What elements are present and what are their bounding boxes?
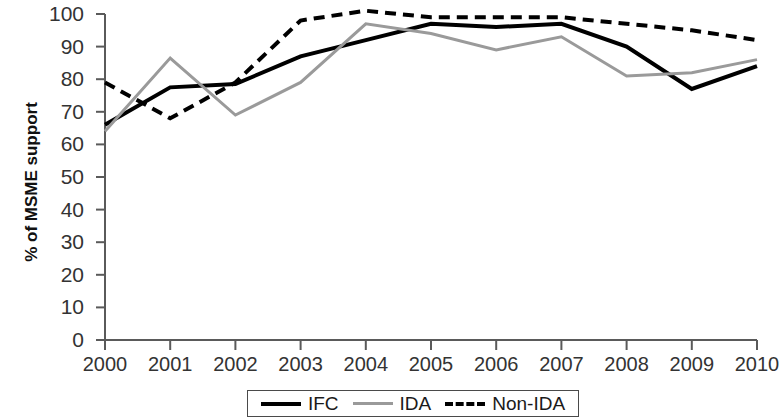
data-series-lines [105,11,757,132]
x-tick-label: 2006 [474,353,519,376]
y-axis-ticks [96,14,105,340]
legend-label-ifc: IFC [308,393,339,415]
x-tick-label: 2008 [604,353,649,376]
chart-legend: IFC IDA Non-IDA [247,390,579,417]
legend-item-ifc: IFC [254,393,346,415]
x-tick-label: 2009 [670,353,715,376]
axis-lines [105,14,757,340]
x-tick-label: 2005 [409,353,454,376]
legend-item-non-ida: Non-IDA [438,393,572,415]
x-tick-label: 2001 [148,353,193,376]
legend-swatch-ifc-icon [261,402,301,406]
x-tick-label: 2010 [735,353,779,376]
x-tick-label: 2003 [278,353,323,376]
x-tick-label: 2002 [213,353,258,376]
legend-label-ida: IDA [400,393,432,415]
legend-item-ida: IDA [346,393,439,415]
series-line-non-ida [105,11,757,119]
legend-swatch-non-ida-icon [445,402,485,406]
legend-swatch-ida-icon [353,402,393,405]
x-axis-ticks [105,340,757,350]
series-line-ida [105,24,757,132]
x-tick-label: 2004 [344,353,389,376]
x-tick-label: 2000 [83,353,128,376]
x-tick-label: 2007 [539,353,584,376]
legend-label-non-ida: Non-IDA [492,393,565,415]
